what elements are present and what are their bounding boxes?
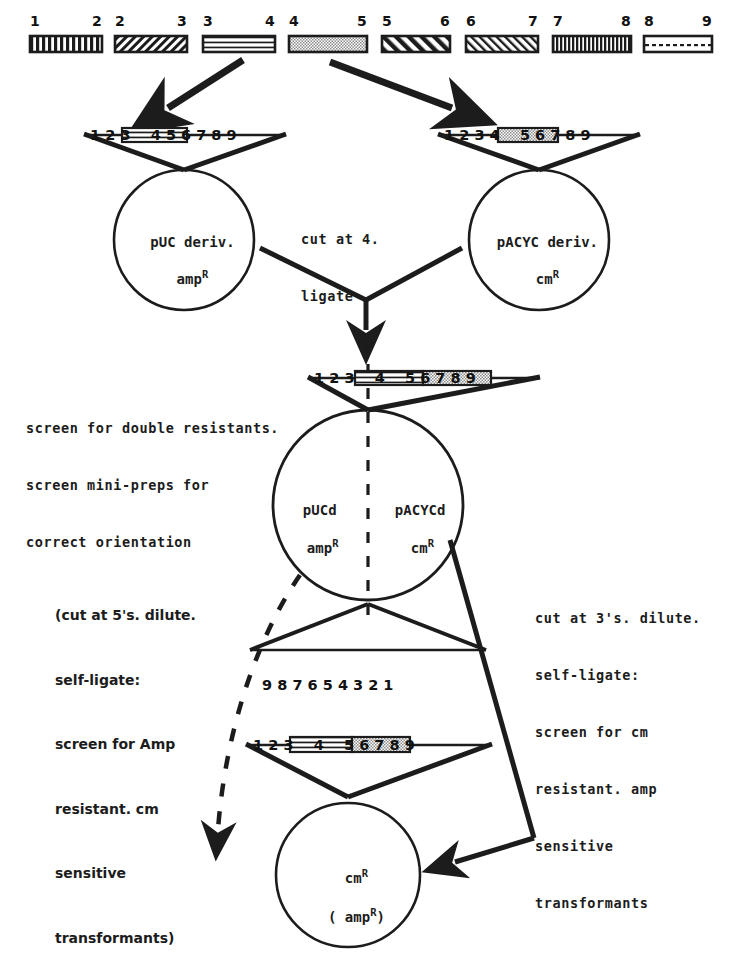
marker-text: cm <box>536 271 553 287</box>
plasmid-name: pACYC deriv. <box>497 234 598 250</box>
scale-num: 9 <box>227 127 237 143</box>
annotation-line: resistant. cm <box>55 799 196 821</box>
scale-num: 7 <box>435 370 445 386</box>
scale-upper-right: 1 2 3 4 5 6 7 8 9 <box>434 111 591 143</box>
scale-num: 8 <box>211 127 221 143</box>
annotation-line: (cut at 5's. dilute. <box>55 605 196 627</box>
annotation-line: self-ligate: <box>55 670 196 692</box>
scale-num: 6 <box>420 370 430 386</box>
marker-close: ) <box>376 909 384 925</box>
scale-num: 4 <box>375 370 385 386</box>
scale-num: 4 <box>314 737 324 753</box>
plasmid-marker-puc-deriv: ampR <box>114 252 254 287</box>
scale-num: 2 <box>368 677 378 693</box>
scale-num: 1 <box>444 127 454 143</box>
scale-num: 6 <box>535 127 545 143</box>
scale-num: 3 <box>283 737 293 753</box>
plasmid-marker-pucd: ampR <box>290 521 364 556</box>
annotation-line: transformants <box>535 894 701 913</box>
plasmid-marker-bottom-amp: ( ampR) <box>288 890 408 925</box>
marker-text: cm <box>411 540 428 556</box>
scale-num: 9 <box>466 370 476 386</box>
plasmid-label-puc-deriv: pUC deriv. <box>114 218 254 250</box>
scale-num: 6 <box>181 127 191 143</box>
fragment-label-right-4: 6 <box>440 13 450 29</box>
fragment-label-left-4: 5 <box>382 13 392 29</box>
fragment-label-left-0: 1 <box>30 13 40 29</box>
scale-num: 2 <box>329 370 339 386</box>
annotation-left-branch: (cut at 5's. dilute. self-ligate: screen… <box>55 562 196 965</box>
marker-superscript: R <box>428 537 434 549</box>
annotation-line: self-ligate: <box>535 666 701 685</box>
plasmid-marker-bottom-cm: cmR <box>288 851 408 886</box>
fragment-label-right-5: 7 <box>528 13 538 29</box>
scale-num: 2 <box>268 737 278 753</box>
scale-bottom: 1 2 3 4 5 6 7 8 9 <box>243 721 415 753</box>
scale-num: 3 <box>353 677 363 693</box>
fragment-label-left-5: 6 <box>466 13 476 29</box>
scale-num: 3 <box>474 127 484 143</box>
plasmid-marker-pacycd: cmR <box>394 521 484 556</box>
scale-num: 4 <box>338 677 348 693</box>
scale-num: 8 <box>277 677 287 693</box>
annotation-line: cut at 4. <box>301 230 380 249</box>
scale-upper-left: 1 2 3 4 5 6 7 8 9 <box>80 111 237 143</box>
annotation-line: cut at 3's. dilute. <box>535 609 701 628</box>
fragment-label-left-3: 4 <box>289 13 299 29</box>
annotation-center-step: cut at 4. ligate <box>301 192 380 325</box>
fragment-label-right-1: 3 <box>177 13 187 29</box>
fragment-label-left-6: 7 <box>553 13 563 29</box>
marker-text: cm <box>345 870 362 886</box>
annotation-line: sensitive <box>535 837 701 856</box>
scale-num: 1 <box>90 127 100 143</box>
scale-num: 8 <box>389 737 399 753</box>
scale-num: 6 <box>308 677 318 693</box>
scale-num: 4 <box>490 127 500 143</box>
scale-num: 9 <box>405 737 415 753</box>
plasmid-label-pacycd: pACYCd <box>378 486 474 518</box>
scale-num: 1 <box>383 677 393 693</box>
scale-num: 4 <box>151 127 161 143</box>
annotation-line: screen for Amp <box>55 734 196 756</box>
plasmid-label-pacyc-deriv: pACYC deriv. <box>464 218 614 250</box>
plasmid-name: pUC deriv. <box>150 234 234 250</box>
scale-num: 7 <box>374 737 384 753</box>
fragment-label-right-2: 4 <box>265 13 275 29</box>
scale-num: 2 <box>459 127 469 143</box>
scale-num: 5 <box>323 677 333 693</box>
annotation-right-branch: cut at 3's. dilute. self-ligate: screen … <box>535 571 701 932</box>
annotation-line: ligate <box>301 287 380 306</box>
scale-num: 6 <box>359 737 369 753</box>
scale-num: 5 <box>405 370 415 386</box>
plasmid-name: pACYCd <box>395 502 446 518</box>
annotation-line: sensitive <box>55 863 196 885</box>
fragment-label-left-2: 3 <box>203 13 213 29</box>
scale-num: 1 <box>253 737 263 753</box>
scale-num: 9 <box>581 127 591 143</box>
scale-middle-reversed: 9 8 7 6 5 4 3 2 1 <box>252 661 393 693</box>
scale-num: 7 <box>550 127 560 143</box>
fragment-label-left-7: 8 <box>644 13 654 29</box>
marker-text: amp <box>307 540 332 556</box>
annotation-screen-step: screen for double resistants. screen min… <box>26 381 279 571</box>
marker-text: ( amp <box>328 909 370 925</box>
marker-superscript: R <box>553 268 559 280</box>
scale-num: 8 <box>565 127 575 143</box>
annotation-line: screen for double resistants. <box>26 419 279 438</box>
plasmid-label-pucd: pUCd <box>286 486 364 518</box>
annotation-line: resistant. amp <box>535 780 701 799</box>
marker-superscript: R <box>362 867 368 879</box>
scale-num: 9 <box>262 677 272 693</box>
marker-superscript: R <box>332 537 338 549</box>
fragment-label-right-7: 9 <box>702 13 712 29</box>
fragment-label-left-1: 2 <box>115 13 125 29</box>
annotation-line: transformants) <box>55 928 196 950</box>
diagram-canvas: 1 2 2 3 3 4 4 5 5 6 6 7 7 8 8 9 1 2 3 4 … <box>0 0 736 965</box>
annotation-line: screen for cm <box>535 723 701 742</box>
scale-num: 5 <box>344 737 354 753</box>
scale-num: 3 <box>120 127 130 143</box>
fragment-label-right-3: 5 <box>357 13 367 29</box>
scale-num: 2 <box>105 127 115 143</box>
plasmid-name: pUCd <box>303 502 337 518</box>
annotation-line: screen mini-preps for <box>26 476 279 495</box>
